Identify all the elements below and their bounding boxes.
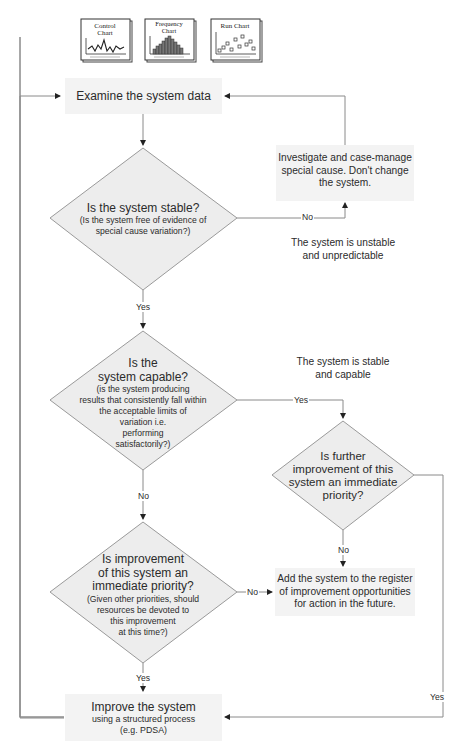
note-stable-capable-line-2: and capable xyxy=(283,368,403,381)
priority-sub-2: resources be devoted to xyxy=(55,605,231,616)
further-line-4: priority? xyxy=(283,489,403,502)
priority-title-3: immediate priority? xyxy=(55,580,231,594)
control-chart-icon: Control Chart xyxy=(80,18,134,62)
edge-label-priority-yes: Yes xyxy=(135,673,151,683)
improve-sub-1: using a structured process xyxy=(65,714,222,725)
priority-title-1: Is improvement xyxy=(55,553,231,567)
stable-title: Is the system stable? xyxy=(60,201,226,215)
priority-sub-4: at this time?) xyxy=(55,627,231,638)
investigate-label: Investigate and case-manage special caus… xyxy=(276,152,414,190)
capable-sub-6: satisfactorily?) xyxy=(55,439,231,450)
edge-label-capable-no: No xyxy=(137,491,150,501)
register-line-1: Add the system to the register xyxy=(275,573,415,586)
improvement-priority-question: Is improvement of this system an immedia… xyxy=(55,553,231,638)
note-unstable-line-2: and unpredictable xyxy=(283,249,403,262)
further-line-3: system an immediate xyxy=(283,476,403,489)
investigate-line-2: special cause. Don't change xyxy=(276,165,414,178)
investigate-line-1: Investigate and case-manage xyxy=(276,152,414,165)
note-unstable-line-1: The system is unstable xyxy=(283,236,403,249)
arrow-capable-yes xyxy=(237,400,343,418)
svg-text:Chart: Chart xyxy=(162,27,177,34)
priority-title-2: of this system an xyxy=(55,567,231,581)
capable-sub-4: variation i.e. xyxy=(55,417,231,428)
svg-text:Run Chart: Run Chart xyxy=(221,22,250,30)
further-line-1: Is further xyxy=(283,450,403,463)
register-line-3: for action in the future. xyxy=(275,598,415,611)
capable-title-1: Is the xyxy=(55,357,231,371)
priority-sub-3: this improvement xyxy=(55,616,231,627)
capable-sub-2: results that consistently fall within xyxy=(55,395,231,406)
stable-sub-1: (Is the system free of evidence of xyxy=(60,215,226,226)
run-chart-icon: Run Chart xyxy=(210,18,264,62)
arrow-investigate-to-examine xyxy=(225,96,345,145)
edge-label-stable-yes: Yes xyxy=(135,302,151,312)
stable-sub-2: special cause variation?) xyxy=(60,226,226,237)
capable-sub-1: (is the system producing xyxy=(55,384,231,395)
improve-title: Improve the system xyxy=(65,700,222,714)
register-label: Add the system to the register of improv… xyxy=(275,573,415,611)
svg-text:Chart: Chart xyxy=(97,29,113,37)
arrow-stable-no xyxy=(237,203,345,218)
capable-title-2: system capable? xyxy=(55,371,231,385)
investigate-line-3: the system. xyxy=(276,177,414,190)
register-line-2: of improvement opportunities xyxy=(275,586,415,599)
improve-sub-2: (e.g. PDSA) xyxy=(65,725,222,736)
frequency-chart-icon: Frequency Chart xyxy=(144,18,198,62)
examine-label: Examine the system data xyxy=(65,89,222,103)
edge-label-further-yes: Yes xyxy=(429,692,445,702)
priority-sub-1: (Given other priorities, should xyxy=(55,594,231,605)
improve-label: Improve the system using a structured pr… xyxy=(65,700,222,736)
edge-label-capable-yes: Yes xyxy=(293,395,309,405)
capable-sub-5: performing xyxy=(55,428,231,439)
capable-question: Is the system capable? (is the system pr… xyxy=(55,357,231,450)
edge-label-further-no: No xyxy=(337,545,350,555)
capable-sub-3: the acceptable limits of xyxy=(55,406,231,417)
edge-label-stable-no: No xyxy=(301,212,314,222)
note-stable-capable-line-1: The system is stable xyxy=(283,355,403,368)
further-improvement-question: Is further improvement of this system an… xyxy=(283,450,403,502)
note-unstable: The system is unstable and unpredictable xyxy=(283,236,403,262)
svg-text:Frequency: Frequency xyxy=(155,20,183,27)
note-stable-capable: The system is stable and capable xyxy=(283,355,403,381)
further-line-2: improvement of this xyxy=(283,463,403,476)
stable-question: Is the system stable? (Is the system fre… xyxy=(60,201,226,237)
edge-label-priority-no: No xyxy=(246,587,259,597)
